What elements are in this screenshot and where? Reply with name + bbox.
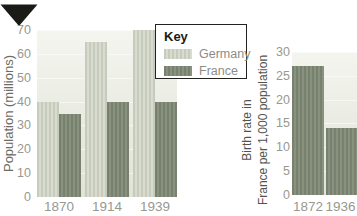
germany-color-swatch — [164, 49, 192, 59]
x-tick-label-1936: 1936 — [324, 199, 357, 214]
y-tick-label: 25 — [263, 69, 290, 83]
y-tick-label: 60 — [0, 47, 31, 61]
legend-label-france: France — [199, 64, 238, 78]
y-tick-label: 50 — [0, 71, 31, 85]
bar-germany-1939 — [133, 30, 155, 197]
y-tick-label: 10 — [263, 140, 290, 154]
y-tick-label: 20 — [263, 93, 290, 107]
y-tick-label: 0 — [0, 190, 31, 204]
bar-birthrate-1936 — [326, 128, 357, 195]
france-color-swatch — [164, 66, 192, 76]
bar-germany-1914 — [85, 42, 107, 197]
x-tick-label-1872: 1872 — [290, 199, 326, 214]
population-birthrate-infographic: Population (millions) 70 60 50 40 30 20 … — [0, 0, 357, 216]
x-tick-label-1939: 1939 — [133, 199, 177, 214]
y-tick-label: 30 — [263, 45, 290, 59]
bar-france-1914 — [107, 102, 129, 197]
bar-france-1870 — [59, 114, 81, 198]
y-tick-label: 0 — [263, 188, 290, 202]
legend: Key Germany France — [155, 24, 247, 79]
y-tick-label: 30 — [0, 118, 31, 132]
x-tick-label-1870: 1870 — [37, 199, 81, 214]
y-tick-label: 70 — [0, 23, 31, 37]
legend-item-france: France — [164, 64, 240, 78]
bar-germany-1870 — [37, 102, 59, 197]
y-tick-label: 40 — [0, 95, 31, 109]
x-tick-label-1914: 1914 — [85, 199, 129, 214]
y-tick-label: 15 — [263, 116, 290, 130]
y-axis-title-line-1: Birth rate in — [239, 55, 255, 205]
y-tick-label: 5 — [263, 164, 290, 178]
y-tick-label: 10 — [0, 166, 31, 180]
bar-france-1939 — [155, 102, 177, 197]
right-chart-plot-area — [292, 52, 357, 195]
legend-title: Key — [164, 29, 240, 44]
legend-item-germany: Germany — [164, 47, 240, 61]
y-tick-label: 20 — [0, 142, 31, 156]
bar-birthrate-1872 — [292, 66, 324, 195]
